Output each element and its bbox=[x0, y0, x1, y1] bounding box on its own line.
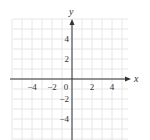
x-tick-label: 2 bbox=[90, 82, 95, 92]
y-tick-label: −2 bbox=[59, 94, 69, 104]
x-tick-label: −4 bbox=[27, 82, 37, 92]
coordinate-plane: x y −4−202442−2−4 bbox=[0, 0, 150, 140]
x-tick-label: 4 bbox=[110, 82, 115, 92]
x-tick-label: 0 bbox=[64, 82, 69, 92]
y-axis-label: y bbox=[68, 6, 74, 17]
x-tick-label: −2 bbox=[47, 82, 57, 92]
y-tick-label: 4 bbox=[65, 34, 70, 44]
axes bbox=[10, 19, 131, 140]
y-tick-label: −4 bbox=[59, 114, 69, 124]
y-axis-arrow-icon bbox=[70, 19, 75, 25]
x-axis-arrow-icon bbox=[125, 77, 131, 82]
y-tick-label: 2 bbox=[65, 54, 70, 64]
x-axis-label: x bbox=[133, 73, 139, 84]
